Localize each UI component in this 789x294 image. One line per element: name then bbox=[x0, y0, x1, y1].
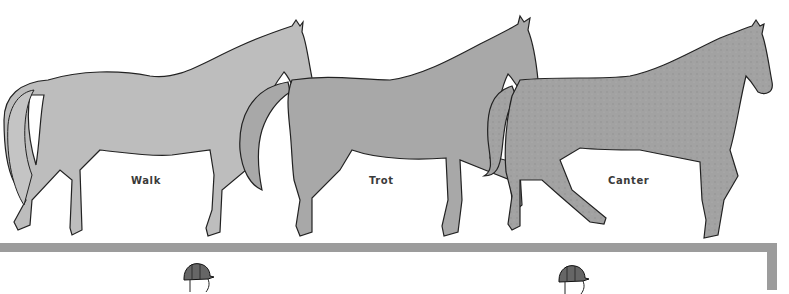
gait-label-trot: Trot bbox=[369, 175, 394, 186]
canter-horse-icon bbox=[0, 0, 789, 245]
gait-label-canter: Canter bbox=[608, 175, 649, 186]
vertical-divider-bar bbox=[767, 243, 777, 290]
horizontal-divider-bar bbox=[0, 243, 777, 252]
rider-helmet-icon bbox=[553, 262, 593, 294]
gait-label-walk: Walk bbox=[131, 175, 161, 186]
rider-helmet-icon bbox=[178, 260, 218, 292]
